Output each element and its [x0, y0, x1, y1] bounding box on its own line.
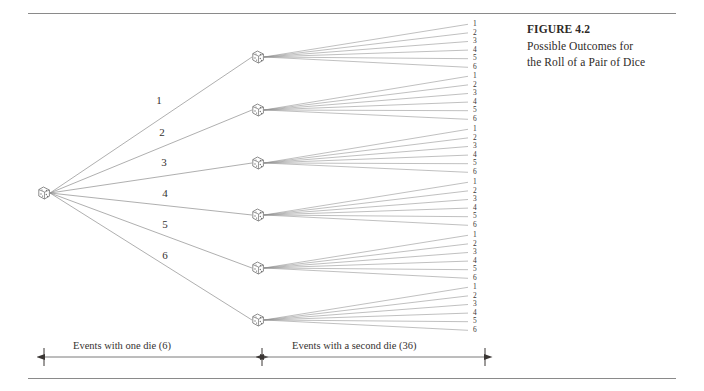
- branch-level2-6-3: [264, 305, 468, 321]
- die-icon-level2-2: [253, 104, 264, 116]
- branch-level2-3-1: [264, 129, 468, 163]
- branch-level2-5-3: [264, 253, 468, 269]
- branch-level2-3-2: [264, 138, 468, 163]
- branch-level2-2-3: [264, 94, 468, 111]
- branch-level2-6-6: [264, 320, 468, 330]
- branch-level2-3-3: [264, 147, 468, 164]
- branch-level1-6: [50, 193, 252, 320]
- branch-label-2: 2: [155, 126, 169, 138]
- branch-level2-1-3: [264, 42, 468, 58]
- branch-level2-2-1: [264, 76, 468, 110]
- branch-level2-2-5: [264, 110, 468, 111]
- axis-label-one-die: Events with one die (6): [73, 340, 171, 351]
- branch-label-4: 4: [158, 187, 172, 199]
- branch-label-5: 5: [158, 218, 172, 230]
- figure-caption-line-1: Possible Outcomes for: [527, 39, 697, 55]
- branch-label-1: 1: [152, 94, 166, 106]
- branch-level2-4-2: [264, 191, 468, 215]
- branch-level2-4-5: [264, 215, 468, 217]
- branch-level2-1-1: [264, 24, 468, 57]
- figure-container: FIGURE 4.2 Possible Outcomes for the Rol…: [0, 0, 704, 391]
- branch-level2-6-2: [264, 296, 468, 320]
- figure-caption-title: FIGURE 4.2: [527, 22, 697, 38]
- die-icon-level2-1: [253, 51, 264, 63]
- die-icon-level2-3: [253, 157, 264, 169]
- figure-caption: FIGURE 4.2 Possible Outcomes for the Rol…: [527, 22, 697, 71]
- branch-level2-5-1: [264, 235, 468, 268]
- branch-level2-6-1: [264, 287, 468, 320]
- branch-level2-4-3: [264, 200, 468, 216]
- branch-level2-5-6: [264, 268, 468, 278]
- branch-level2-1-2: [264, 33, 468, 57]
- branch-level2-2-6: [264, 110, 468, 119]
- branch-level2-4-1: [264, 182, 468, 215]
- die-icon-level2-6: [253, 314, 264, 326]
- branch-level2-5-5: [264, 268, 468, 270]
- branch-level2-3-6: [264, 163, 468, 172]
- die-icon-level2-4: [253, 209, 264, 221]
- axis-label-second-die: Events with a second die (36): [292, 340, 417, 351]
- branch-label-6: 6: [158, 249, 172, 261]
- outcome-label-3-6: 6: [473, 168, 483, 177]
- figure-caption-line-2: the Roll of a Pair of Dice: [527, 55, 697, 71]
- branch-level2-4-6: [264, 215, 468, 225]
- outcome-label-4-6: 6: [473, 221, 483, 230]
- branch-level2-2-2: [264, 85, 468, 110]
- die-icon-level2-5: [253, 262, 264, 274]
- branch-level1-4: [50, 193, 252, 215]
- branch-level2-2-4: [264, 102, 468, 110]
- die-icon-root: [39, 187, 50, 199]
- outcome-label-2-6: 6: [473, 115, 483, 124]
- top-divider-rule: [28, 13, 676, 14]
- branch-level2-1-5: [264, 57, 468, 59]
- branch-label-3: 3: [157, 156, 171, 168]
- branch-level2-1-6: [264, 57, 468, 67]
- branch-level2-5-4: [264, 261, 468, 268]
- branch-level1-1: [50, 57, 252, 193]
- branch-level1-3: [50, 163, 252, 193]
- die-nodes: [39, 51, 264, 326]
- bottom-divider-rule: [28, 378, 676, 379]
- first-level-branches: [50, 57, 252, 320]
- branch-level2-5-2: [264, 244, 468, 268]
- outcome-label-6-6: 6: [473, 326, 483, 335]
- branch-level2-1-4: [264, 50, 468, 57]
- second-level-branches: [264, 24, 468, 330]
- branch-level2-3-5: [264, 163, 468, 164]
- branch-level1-5: [50, 193, 252, 268]
- branch-level2-6-5: [264, 320, 468, 322]
- branch-level2-3-4: [264, 155, 468, 163]
- branch-level1-2: [50, 110, 252, 193]
- branch-level2-4-4: [264, 208, 468, 215]
- branch-level2-6-4: [264, 313, 468, 320]
